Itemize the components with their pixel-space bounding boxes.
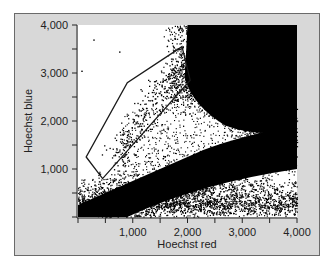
x-tick-label: 1,000 xyxy=(119,226,147,238)
x-tick-label: 4,000 xyxy=(283,226,311,238)
x-axis-title: Hoechst red xyxy=(157,238,216,250)
y-tick-label: 4,000 xyxy=(40,19,68,31)
y-axis-title: Hoechst blue xyxy=(22,89,34,153)
y-tick-label: 2,000 xyxy=(40,115,68,127)
y-tick-label: 3,000 xyxy=(40,67,68,79)
y-tick-label: 1,000 xyxy=(40,163,68,175)
x-tick-label: 3,000 xyxy=(228,226,256,238)
scatter-plot: 1,0002,0003,0004,0001,0002,0003,0004,000… xyxy=(15,14,321,257)
figure-frame: 1,0002,0003,0004,0001,0002,0003,0004,000… xyxy=(14,13,320,256)
x-tick-label: 2,000 xyxy=(174,226,202,238)
